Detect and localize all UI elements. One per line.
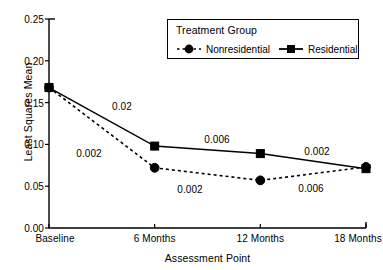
p-value-annotation: 0.002 bbox=[177, 184, 203, 195]
data-point-marker-circle bbox=[150, 163, 159, 172]
chart-figure: Least Squares Mean 0.250.200.150.100.050… bbox=[0, 0, 383, 270]
legend-entry-residential: Residential bbox=[278, 42, 357, 56]
legend-key-square-solid-icon bbox=[278, 43, 304, 55]
data-point-marker-square bbox=[256, 150, 264, 158]
p-value-annotation: 0.02 bbox=[112, 101, 132, 112]
legend-label: Nonresidential bbox=[206, 44, 270, 55]
data-point-marker-square bbox=[45, 84, 53, 92]
legend-label: Residential bbox=[308, 44, 357, 55]
p-value-annotation: 0.002 bbox=[76, 148, 102, 159]
data-point-marker-circle bbox=[256, 176, 265, 185]
legend-box: Treatment Group Nonresidential Residenti… bbox=[167, 19, 359, 59]
legend-title: Treatment Group bbox=[176, 24, 257, 36]
legend-entry-nonresidential: Nonresidential bbox=[176, 42, 270, 56]
p-value-annotation: 0.002 bbox=[304, 146, 330, 157]
legend-key-circle-dashed-icon bbox=[176, 43, 202, 55]
p-value-annotation: 0.006 bbox=[298, 183, 324, 194]
p-value-annotation: 0.006 bbox=[204, 134, 230, 145]
data-point-marker-square bbox=[151, 142, 159, 150]
data-point-marker-square bbox=[362, 165, 370, 173]
